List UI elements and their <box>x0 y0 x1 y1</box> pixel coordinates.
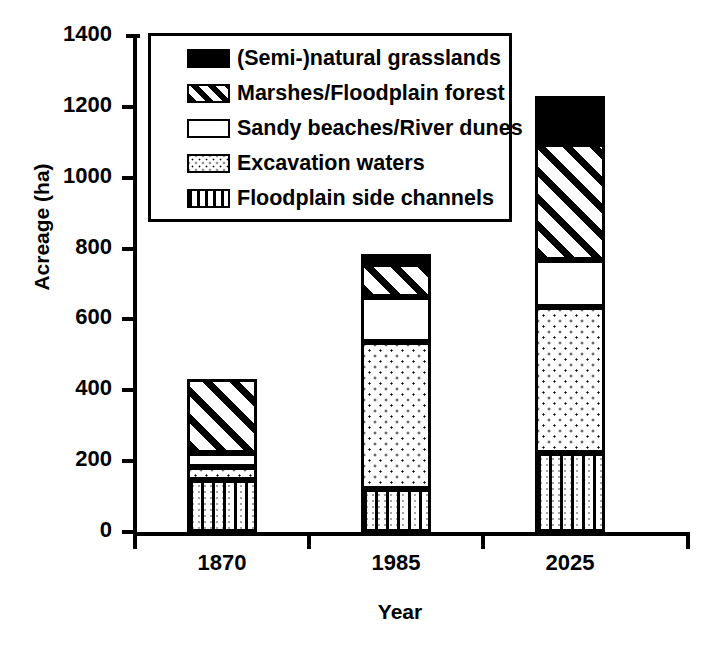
legend-item-label: Marshes/Floodplain forest <box>237 83 505 105</box>
y-axis-tick <box>126 34 140 38</box>
x-axis-tick-label: 2025 <box>510 550 630 576</box>
y-axis-tick-label: 1000 <box>22 163 112 189</box>
bar-2025 <box>535 96 605 532</box>
bar-segment <box>361 489 431 532</box>
y-axis-tick-label: 1200 <box>22 92 112 118</box>
bar-segment <box>187 379 257 452</box>
bar-segment <box>361 264 431 297</box>
chart-legend: (Semi-)natural grasslandsMarshes/Floodpl… <box>148 33 512 222</box>
bar-1985 <box>361 254 431 532</box>
bar-segment <box>535 453 605 532</box>
legend-item: Sandy beaches/River dunes <box>151 111 509 146</box>
x-axis-tick <box>481 534 485 549</box>
legend-item: (Semi-)natural grasslands <box>151 41 509 76</box>
bar-segment <box>361 342 431 489</box>
legend-swatch-icon <box>187 84 230 103</box>
bar-segment <box>361 254 431 264</box>
legend-item-label: Excavation waters <box>237 153 425 175</box>
y-axis-tick <box>122 317 136 321</box>
stacked-bar-chart: Acreage (ha) 0200400600800100012001400 1… <box>0 0 726 645</box>
x-axis-tick-label: 1985 <box>336 550 456 576</box>
x-axis-tick <box>307 534 311 549</box>
bar-segment <box>187 480 257 532</box>
y-axis-tick <box>122 247 136 251</box>
legend-item-label: Sandy beaches/River dunes <box>237 118 523 140</box>
legend-swatch-icon <box>187 189 230 208</box>
legend-item-label: (Semi-)natural grasslands <box>237 48 501 70</box>
bar-1870 <box>187 379 257 532</box>
y-axis-tick-label: 800 <box>22 234 112 260</box>
legend-swatch-icon <box>187 119 230 138</box>
legend-item: Excavation waters <box>151 146 509 181</box>
y-axis-tick <box>122 176 136 180</box>
x-axis-tick <box>686 534 690 549</box>
y-axis-tick <box>122 105 136 109</box>
x-axis-tick-label: 1870 <box>162 550 282 576</box>
legend-swatch-icon <box>187 154 230 173</box>
bar-segment <box>187 453 257 467</box>
y-axis-tick-label: 200 <box>22 446 112 472</box>
bar-segment <box>535 96 605 144</box>
bar-segment <box>361 297 431 342</box>
legend-item: Floodplain side channels <box>151 181 509 216</box>
bar-segment <box>187 467 257 480</box>
y-axis-tick-label: 1400 <box>22 21 112 47</box>
x-axis-line <box>133 532 690 536</box>
bar-segment <box>535 307 605 453</box>
x-axis-title: Year <box>250 600 550 624</box>
y-axis-tick-label: 400 <box>22 375 112 401</box>
y-axis-tick <box>122 388 136 392</box>
legend-item-label: Floodplain side channels <box>237 188 494 210</box>
legend-swatch-icon <box>187 49 230 68</box>
bar-segment <box>535 144 605 260</box>
bar-segment <box>535 260 605 307</box>
legend-item: Marshes/Floodplain forest <box>151 76 509 111</box>
x-axis-tick <box>133 534 137 549</box>
y-axis-tick <box>122 459 136 463</box>
y-axis-tick-label: 0 <box>22 517 112 543</box>
y-axis-tick-label: 600 <box>22 304 112 330</box>
